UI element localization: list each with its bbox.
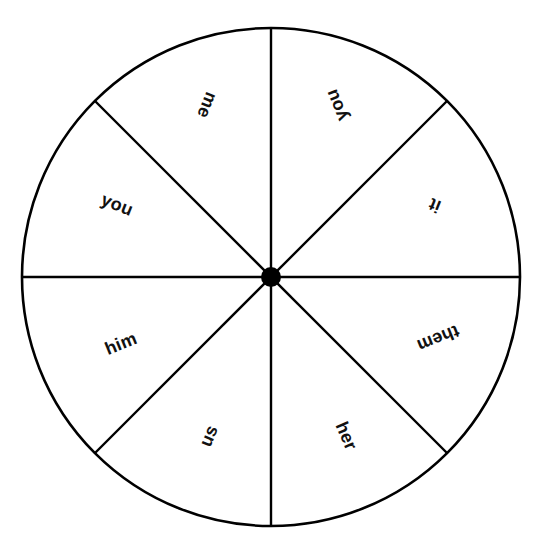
- diagram-page: me you it them her us him you: [0, 0, 537, 555]
- wheel-svg: [0, 0, 537, 555]
- pronoun-wheel: me you it them her us him you: [0, 0, 537, 555]
- wheel-center-hub: [261, 267, 281, 287]
